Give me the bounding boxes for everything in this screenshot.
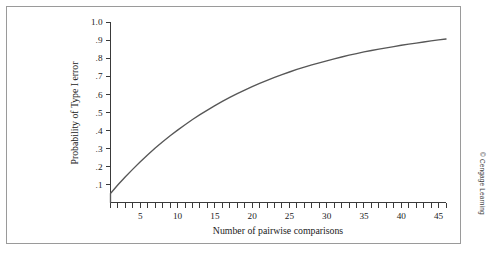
- y-axis-ticks: [106, 22, 111, 184]
- x-tick-label: 10: [173, 211, 183, 221]
- x-tick-label: 30: [322, 211, 332, 221]
- x-tick-label: 15: [210, 211, 220, 221]
- x-tick-label: 5: [138, 211, 143, 221]
- y-tick-label: .2: [96, 162, 103, 172]
- x-tick-label: 35: [359, 211, 369, 221]
- y-axis-title: Probability of Type I error: [69, 61, 80, 165]
- x-tick-label: 40: [397, 211, 407, 221]
- y-axis-tick-labels: 1.0.9.8.7.6.5.4.3.2.1: [91, 17, 103, 189]
- y-tick-label: .9: [96, 35, 103, 45]
- y-tick-label: .5: [96, 108, 103, 118]
- x-tick-label: 20: [248, 211, 258, 221]
- y-tick-label: .1: [96, 180, 103, 190]
- type-i-error-chart: 1.0.9.8.7.6.5.4.3.2.1 51015202530354045 …: [6, 6, 461, 244]
- x-axis-minor-ticks: [111, 203, 447, 208]
- x-axis-tick-labels: 51015202530354045: [138, 211, 444, 221]
- y-tick-label: 1.0: [91, 17, 103, 27]
- x-tick-label: 25: [285, 211, 295, 221]
- y-tick-label: .7: [96, 71, 103, 81]
- x-axis-title: Number of pairwise comparisons: [213, 225, 344, 236]
- figure-container: 1.0.9.8.7.6.5.4.3.2.1 51015202530354045 …: [0, 0, 489, 259]
- error-rate-curve: [111, 39, 447, 203]
- y-tick-label: .4: [96, 126, 103, 136]
- x-tick-label: 45: [434, 211, 444, 221]
- y-tick-label: .8: [96, 53, 103, 63]
- y-tick-label: .3: [96, 144, 103, 154]
- copyright-credit: © Cengage Learning: [386, 152, 486, 166]
- y-tick-label: .6: [96, 90, 103, 100]
